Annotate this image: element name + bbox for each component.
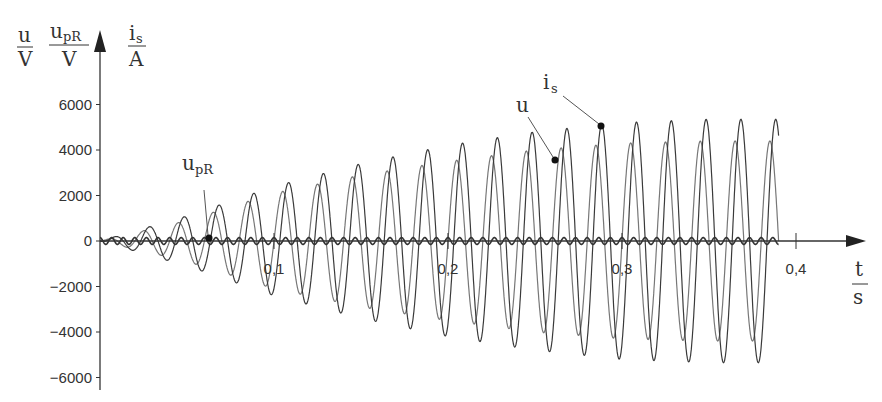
leader-u	[528, 117, 553, 157]
label-upr: u	[182, 151, 195, 175]
y-unit-u-den: V	[17, 47, 33, 71]
x-tick-label: 0,4	[786, 260, 807, 277]
y-axis-arrow-icon	[94, 30, 106, 52]
y-unit-upr-den: V	[61, 47, 77, 71]
y-unit-is-num: i	[129, 21, 135, 45]
y-unit-is-sub: s	[136, 31, 143, 46]
y-unit-upr-sub: pR	[63, 29, 82, 44]
y-tick-label: 0	[84, 232, 92, 249]
marker-upr	[206, 235, 213, 242]
y-tick-label: 2000	[59, 187, 92, 204]
x-unit-t-num: t	[855, 257, 863, 281]
label-upr-sub: pR	[195, 162, 214, 177]
y-tick-label: −4000	[50, 323, 92, 340]
y-unit-is-den: A	[128, 47, 144, 71]
y-tick-label: 6000	[59, 96, 92, 113]
y-tick-label: −2000	[50, 278, 92, 295]
line-chart: 6000400020000−2000−4000−60000,10,20,30,4…	[0, 0, 882, 402]
marker-is	[598, 123, 605, 130]
marker-u	[552, 157, 559, 164]
x-unit-s-den: s	[853, 285, 863, 309]
label-is-sub: s	[551, 81, 558, 96]
label-u: u	[516, 93, 529, 117]
leader-is	[563, 96, 599, 124]
label-is: i	[543, 70, 549, 94]
x-axis-arrow-icon	[846, 235, 866, 247]
y-tick-label: 4000	[59, 141, 92, 158]
x-tick-label: 0,3	[612, 260, 633, 277]
y-tick-label: −6000	[50, 369, 92, 386]
leader-upr	[204, 190, 208, 235]
x-tick-label: 0,1	[264, 260, 285, 277]
y-unit-u-num: u	[18, 23, 31, 47]
x-tick-label: 0,2	[438, 260, 459, 277]
y-unit-upr-num: u	[50, 19, 63, 43]
